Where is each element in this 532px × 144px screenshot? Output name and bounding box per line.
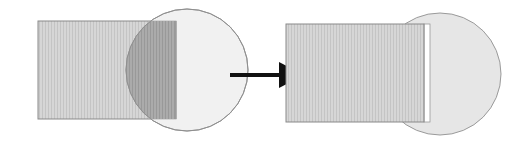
after-panel — [286, 13, 501, 135]
shape-transformation-diagram — [0, 0, 532, 144]
after-rectangle — [286, 24, 424, 122]
gap-strip — [424, 24, 430, 122]
before-panel — [38, 9, 248, 131]
diagram-canvas — [0, 0, 532, 144]
